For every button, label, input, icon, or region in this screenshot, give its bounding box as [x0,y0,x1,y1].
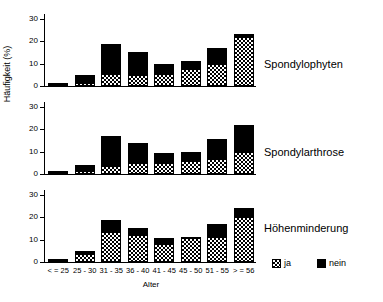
bar-segment-ja [128,235,148,262]
bar-stack [128,143,148,175]
bar-segment-nein [234,208,254,217]
x-axis-line [44,86,256,87]
y-tick-label: 20 [18,212,38,222]
bar-stack [234,34,254,86]
legend-item-ja: ja [272,258,291,268]
bar-segment-nein [207,224,227,238]
bar-stack [75,75,95,86]
bar-stack [75,251,95,262]
y-tick-label: 30 [18,190,38,200]
bar-segment-ja [207,237,227,262]
y-tick-label: 10 [18,59,38,69]
y-tick-mark [40,129,44,130]
bar-segment-ja [128,163,148,174]
y-tick-mark [40,107,44,108]
panel-caption-spondylophyten: Spondylophyten [264,58,343,70]
bar-segment-nein [181,61,201,69]
y-tick-mark [40,262,44,263]
bar-stack [207,139,227,174]
y-axis-title: Häufigkeit (%) [2,24,12,124]
bar-segment-nein [75,75,95,83]
y-tick-mark [40,19,44,20]
bar-segment-ja [101,74,121,86]
bar-stack [181,152,201,175]
bar-group [45,102,256,174]
bar-segment-ja [101,166,121,174]
bar-segment-nein [207,139,227,159]
y-tick-label: 0 [18,257,38,267]
bar-group [45,190,256,262]
panel-spondylarthrose: 0102030 [44,102,256,174]
legend-item-nein: nein [317,258,346,268]
legend-swatch-nein-icon [317,259,326,268]
bar-stack [181,237,201,262]
bar-segment-nein [128,52,148,75]
plot-area: 0102030 [44,190,256,262]
y-tick-label: 10 [18,235,38,245]
bar-segment-ja [234,37,254,87]
bar-stack [207,224,227,262]
bar-segment-ja [207,159,227,174]
x-tick-labels: < = 2525 - 3031 - 3536 - 4041 - 4545 - 5… [45,266,257,278]
bar-stack [154,64,174,87]
bar-segment-nein [234,125,254,152]
bar-segment-ja [234,152,254,175]
bar-segment-nein [101,220,121,231]
legend: ja nein [272,258,346,268]
y-tick-mark [40,240,44,241]
legend-label-nein: nein [329,258,346,268]
bar-segment-ja [48,172,68,174]
y-tick-mark [40,64,44,65]
bar-stack [128,52,148,86]
panel-spondylophyten: 0102030 [44,14,256,86]
bar-stack [154,153,174,174]
bar-stack [48,83,68,86]
bar-stack [128,228,148,262]
bar-segment-nein [207,48,227,64]
bar-segment-ja [48,84,68,86]
bar-stack [101,136,121,174]
y-tick-mark [40,174,44,175]
bar-segment-ja [181,69,201,86]
y-tick-mark [40,152,44,153]
x-tick-label: > = 56 [227,266,262,276]
panel-hoehenminderung: 0102030 [44,190,256,262]
bar-segment-ja [48,260,68,262]
y-tick-mark [40,217,44,218]
y-tick-label: 20 [18,124,38,134]
y-tick-label: 20 [18,36,38,46]
bar-stack [207,48,227,86]
bar-segment-ja [154,163,174,174]
bar-segment-nein [154,64,174,74]
legend-label-ja: ja [284,258,291,268]
bar-segment-ja [154,74,174,86]
legend-swatch-ja-icon [272,259,281,268]
bar-stack [234,208,254,262]
plot-area: 0102030 [44,14,256,86]
bar-segment-ja [128,75,148,86]
y-tick-label: 0 [18,169,38,179]
y-tick-label: 0 [18,81,38,91]
bar-stack [48,259,68,262]
y-tick-mark [40,86,44,87]
bar-segment-ja [75,83,95,86]
bar-stack [181,61,201,86]
y-tick-mark [40,41,44,42]
y-tick-mark [40,195,44,196]
bar-segment-nein [181,152,201,161]
bar-segment-nein [128,143,148,163]
bar-segment-nein [128,228,148,235]
bar-stack [101,44,121,86]
bar-segment-nein [101,136,121,166]
figure: Häufigkeit (%) 0102030 0102030 0102030 <… [0,0,383,302]
bar-segment-ja [75,171,95,174]
x-axis-line [44,174,256,175]
plot-area: 0102030 [44,102,256,174]
bar-segment-ja [234,217,254,262]
y-tick-label: 30 [18,102,38,112]
bar-segment-ja [181,161,201,175]
bar-stack [101,220,121,262]
bar-segment-nein [101,44,121,73]
panel-caption-spondylarthrose: Spondylarthrose [264,146,344,158]
bar-segment-ja [181,238,201,262]
